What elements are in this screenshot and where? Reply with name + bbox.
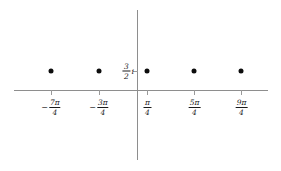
fraction: π 4 bbox=[144, 99, 152, 116]
data-point bbox=[49, 69, 54, 74]
fraction: 5π 4 bbox=[189, 99, 201, 116]
x-tick-label: π 4 bbox=[143, 99, 152, 116]
fraction-denominator: 2 bbox=[123, 72, 130, 80]
fraction: 9π 4 bbox=[236, 99, 248, 116]
complex-plane-plot: − 7π 4 − 3π 4 π 4 5π 4 9π bbox=[0, 0, 281, 171]
fraction-denominator: 4 bbox=[51, 108, 58, 116]
x-tick-label: 9π 4 bbox=[235, 99, 248, 116]
fraction: 3π 4 bbox=[97, 99, 109, 116]
x-tick-label: − 3π 4 bbox=[89, 99, 108, 116]
fraction-numerator: 9π bbox=[236, 99, 248, 107]
fraction-numerator: 3π bbox=[97, 99, 109, 107]
fraction: 3 2 bbox=[122, 63, 130, 80]
y-tick-label: 3 2 i bbox=[122, 63, 134, 80]
data-point bbox=[97, 69, 102, 74]
fraction-numerator: 5π bbox=[189, 99, 201, 107]
fraction-numerator: 7π bbox=[49, 99, 61, 107]
fraction-denominator: 4 bbox=[191, 108, 198, 116]
fraction-denominator: 4 bbox=[238, 108, 245, 116]
fraction-numerator: 3 bbox=[123, 63, 130, 71]
imaginary-axis-line bbox=[137, 10, 138, 160]
real-axis-line bbox=[14, 90, 268, 91]
x-tick-label: − 7π 4 bbox=[41, 99, 60, 116]
minus-sign: − bbox=[89, 104, 96, 112]
fraction-denominator: 4 bbox=[144, 108, 151, 116]
x-tick-mark bbox=[194, 90, 195, 95]
x-tick-mark bbox=[51, 90, 52, 95]
x-tick-mark bbox=[147, 90, 148, 95]
imaginary-unit-label: i bbox=[131, 67, 134, 76]
x-tick-mark bbox=[241, 90, 242, 95]
x-tick-label: 5π 4 bbox=[188, 99, 201, 116]
minus-sign: − bbox=[41, 104, 48, 112]
fraction-numerator: π bbox=[144, 99, 151, 107]
data-point bbox=[239, 69, 244, 74]
x-tick-mark bbox=[99, 90, 100, 95]
fraction: 7π 4 bbox=[49, 99, 61, 116]
data-point bbox=[192, 69, 197, 74]
fraction-denominator: 4 bbox=[99, 108, 106, 116]
data-point bbox=[145, 69, 150, 74]
